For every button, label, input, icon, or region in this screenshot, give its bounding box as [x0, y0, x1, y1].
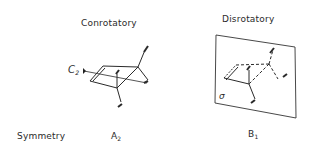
c2-arrowhead-icon: [83, 68, 86, 74]
conrotatory-molecule: [83, 46, 148, 107]
disrotatory-molecule: [224, 48, 287, 103]
diagram-canvas: [0, 0, 310, 154]
